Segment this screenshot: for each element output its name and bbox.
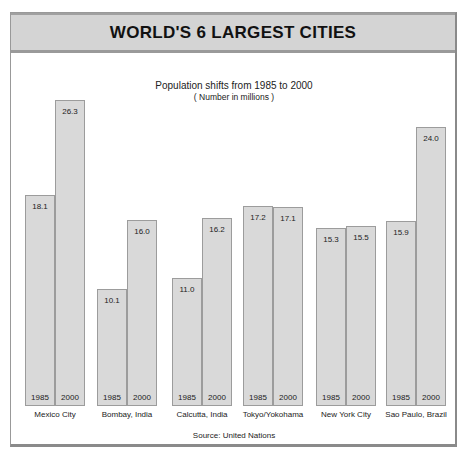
bar-year-label: 1985 — [387, 393, 415, 402]
bar-value-label: 17.1 — [274, 214, 302, 223]
bar-value-label: 10.1 — [98, 296, 126, 305]
bar-year-label: 2000 — [203, 393, 231, 402]
bar-value-label: 16.2 — [203, 225, 231, 234]
bar-2000: 24.02000 — [416, 127, 446, 406]
bar-value-label: 24.0 — [417, 134, 445, 143]
bar-1985: 15.91985 — [386, 221, 416, 406]
bar-2000: 17.12000 — [273, 207, 303, 406]
chart-source: Source: United Nations — [0, 431, 468, 440]
bar-value-label: 15.3 — [317, 235, 345, 244]
bar-1985: 10.11985 — [97, 289, 127, 406]
bar-year-label: 2000 — [56, 393, 84, 402]
bar-2000: 26.32000 — [55, 100, 85, 406]
bar-year-label: 2000 — [347, 393, 375, 402]
bar-1985: 15.31985 — [316, 228, 346, 406]
plot-area: 18.1198526.32000Mexico City10.1198516.02… — [0, 0, 468, 459]
bar-year-label: 1985 — [98, 393, 126, 402]
bar-2000: 15.52000 — [346, 226, 376, 406]
bar-value-label: 18.1 — [26, 202, 54, 211]
bar-value-label: 17.2 — [244, 213, 272, 222]
bar-value-label: 15.9 — [387, 228, 415, 237]
bar-value-label: 15.5 — [347, 233, 375, 242]
bar-year-label: 2000 — [274, 393, 302, 402]
bar-year-label: 2000 — [417, 393, 445, 402]
bar-year-label: 1985 — [317, 393, 345, 402]
bar-1985: 17.21985 — [243, 206, 273, 406]
category-label: Sao Paulo, Brazil — [371, 410, 461, 419]
bar-year-label: 2000 — [128, 393, 156, 402]
bar-value-label: 16.0 — [128, 227, 156, 236]
bar-2000: 16.22000 — [202, 218, 232, 406]
bar-year-label: 1985 — [244, 393, 272, 402]
bar-year-label: 1985 — [26, 393, 54, 402]
bar-1985: 11.01985 — [172, 278, 202, 406]
bar-value-label: 11.0 — [173, 285, 201, 294]
bar-year-label: 1985 — [173, 393, 201, 402]
bar-value-label: 26.3 — [56, 107, 84, 116]
bar-1985: 18.11985 — [25, 195, 55, 406]
bar-2000: 16.02000 — [127, 220, 157, 406]
